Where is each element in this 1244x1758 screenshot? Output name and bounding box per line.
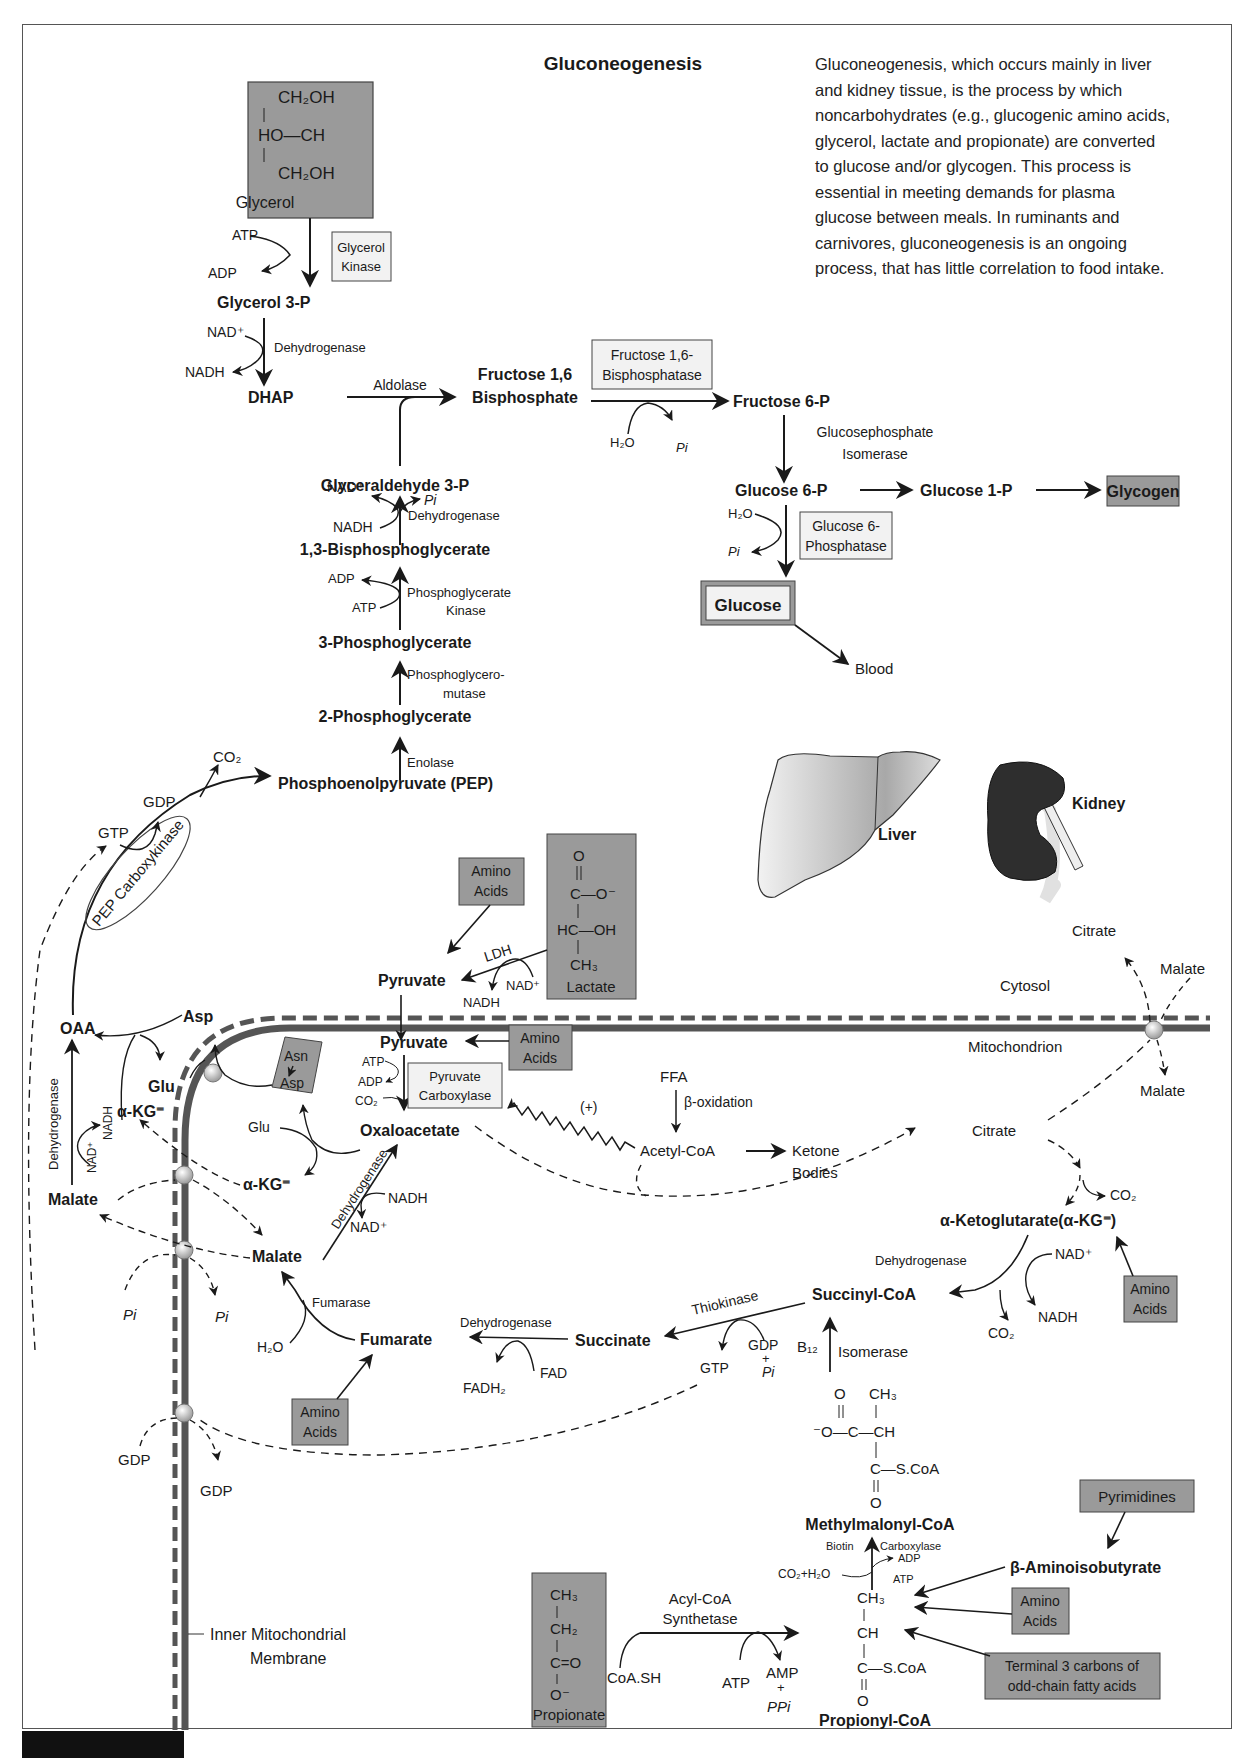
diagram-label: Acids: [474, 883, 508, 899]
diagram-label: Thiokinase: [690, 1287, 760, 1318]
diagram-label: GTP: [700, 1360, 729, 1376]
diagram-label: AMP: [766, 1664, 799, 1681]
malate-mito-right: Malate: [1140, 1082, 1185, 1099]
g6pase-enzyme-box: Glucose 6- Phosphatase: [800, 512, 892, 559]
diagram-label: NAD⁺: [85, 1142, 99, 1173]
diagram-label: Carboxylase: [419, 1088, 491, 1103]
membrane-label: Inner Mitochondrial: [210, 1626, 346, 1643]
diagram-label: ADP: [898, 1552, 921, 1564]
pyrimidines-box: Pyrimidines: [1080, 1480, 1194, 1512]
diagram-label: ⁻O—C—CH: [813, 1423, 895, 1440]
diagram-label: +: [777, 1680, 785, 1695]
diagram-label: H₂O: [728, 506, 753, 521]
glycerol-kinase-enzyme-box: Glycerol Kinase: [332, 232, 391, 281]
asp-cytosol: Asp: [183, 1008, 213, 1025]
diagram-label: Phosphoglycerate: [407, 585, 511, 600]
fructose-16-bp: Fructose 1,6: [478, 366, 572, 383]
glycogen-box: Glycogen: [1107, 476, 1180, 506]
diagram-label: Dehydrogenase: [274, 340, 366, 355]
lactate-substrate-box: O C—O⁻ HC—OH CH₃ Lactate: [547, 834, 636, 999]
diagram-label: Amino: [520, 1030, 560, 1046]
glu-cytosol: Glu: [148, 1078, 175, 1095]
diagram-label: Bisphosphatase: [602, 367, 702, 383]
diagram-label: Amino: [471, 863, 511, 879]
fructose-6p: Fructose 6-P: [733, 393, 830, 410]
kidney-illustration: [988, 762, 1084, 900]
pep: Phosphoenolpyruvate (PEP): [278, 775, 493, 792]
diagram-label: Glucose 6-: [812, 518, 880, 534]
diagram-label: Kinase: [446, 603, 486, 618]
diagram-label: CoA.SH: [607, 1669, 661, 1686]
diagram-label: NADH: [388, 1190, 428, 1206]
cytosol-label: Cytosol: [1000, 977, 1050, 994]
diagram-label: C—S.CoA: [857, 1659, 926, 1676]
amino-acids-box-mito: Amino Acids: [509, 1025, 572, 1070]
diagram-label: Phosphoglycero-: [407, 667, 505, 682]
akg-mito: α-KG⁼: [243, 1176, 290, 1193]
diagram-label: Pyruvate: [429, 1069, 480, 1084]
diagram-label: HC—OH: [557, 921, 616, 938]
asn-asp-box: Asn Asp: [272, 1037, 322, 1093]
diagram-label: GDP: [143, 793, 176, 810]
diagram-label: Pi: [676, 440, 689, 455]
acetyl-coa: Acetyl-CoA: [640, 1142, 715, 1159]
propionate-substrate-box: CH₃ CH₂ C=O O⁻ Propionate: [532, 1573, 606, 1727]
diagram-label: NAD⁺: [1055, 1246, 1092, 1262]
diagram-label: ADP: [358, 1075, 383, 1089]
diagram-label: ATP: [722, 1674, 750, 1691]
glucose-6p: Glucose 6-P: [735, 482, 828, 499]
beta-aminoisobutyrate: β-Aminoisobutyrate: [1010, 1559, 1161, 1576]
methylmalonyl-coa: Methylmalonyl-CoA: [805, 1516, 955, 1533]
diagram-label: NADH: [333, 519, 373, 535]
glucose-1p: Glucose 1-P: [920, 482, 1013, 499]
diagram-label: Pi: [728, 544, 741, 559]
diagram-label: Pi: [424, 492, 437, 508]
diagram-label: ATP: [362, 1055, 384, 1069]
adp-label: ADP: [208, 265, 237, 281]
diagram-label: (+): [580, 1099, 598, 1115]
diagram-label: CH₃: [550, 1586, 578, 1603]
diagram-label: Aldolase: [373, 377, 427, 393]
diagram-label: CH₂OH: [278, 164, 335, 183]
diagram-label: CH₃: [869, 1385, 897, 1402]
2-phosphoglycerate: 2-Phosphoglycerate: [319, 708, 472, 725]
diagram-label: Acids: [1023, 1613, 1057, 1629]
glucose-box: Glucose: [701, 581, 795, 625]
diagram-label: Pi: [762, 1364, 775, 1380]
diagram-label: Dehydrogenase: [460, 1315, 552, 1330]
diagram-title: Gluconeogenesis: [544, 53, 702, 74]
propionyl-coa: Propionyl-CoA: [819, 1712, 931, 1729]
13-bisphosphoglycerate: 1,3-Bisphosphoglycerate: [300, 541, 490, 558]
oxaloacetate: Oxaloacetate: [360, 1122, 460, 1139]
fumarate: Fumarate: [360, 1331, 432, 1348]
diagram-label: Glycerol: [337, 240, 385, 255]
diagram-label: Amino: [1130, 1281, 1170, 1297]
diagram-label: CH₃: [570, 956, 598, 973]
diagram-label: β-oxidation: [684, 1094, 753, 1110]
diagram-label: Biotin: [826, 1540, 854, 1552]
kidney-label: Kidney: [1072, 795, 1125, 812]
diagram-label: CH₂OH: [278, 88, 335, 107]
glycerol-3p: Glycerol 3-P: [217, 294, 311, 311]
diagram-label: Terminal 3 carbons of: [1005, 1658, 1139, 1674]
amino-acids-box-akg: Amino Acids: [1124, 1276, 1177, 1322]
citrate-cytosol: Citrate: [1072, 922, 1116, 939]
glu-mito: Glu: [248, 1119, 270, 1135]
diagram-label: NAD⁺: [350, 1219, 387, 1235]
diagram-label: FAD: [540, 1365, 567, 1381]
diagram-label: Phosphatase: [805, 538, 887, 554]
methylmalonyl-coa-structure: O CH₃ ⁻O—C—CH C—S.CoA O: [813, 1385, 939, 1511]
diagram-label: ATP: [352, 600, 376, 615]
diagram-label: Propionate: [533, 1706, 606, 1723]
diagram-label: Pi: [215, 1308, 229, 1325]
g3p-nad-plus: NAD⁺: [327, 479, 364, 495]
diagram-label: CH₂: [550, 1620, 578, 1637]
diagram-label: mutase: [443, 686, 486, 701]
diagram-label: Fructose 1,6-: [611, 347, 694, 363]
diagram-label: CO₂: [213, 748, 242, 765]
diagram-label: O: [870, 1494, 882, 1511]
diagram-label: odd-chain fatty acids: [1008, 1678, 1136, 1694]
amino-acids-box-fumarate: Amino Acids: [292, 1399, 348, 1445]
diagram-label: Acids: [1133, 1301, 1167, 1317]
malate-mito: Malate: [252, 1248, 302, 1265]
